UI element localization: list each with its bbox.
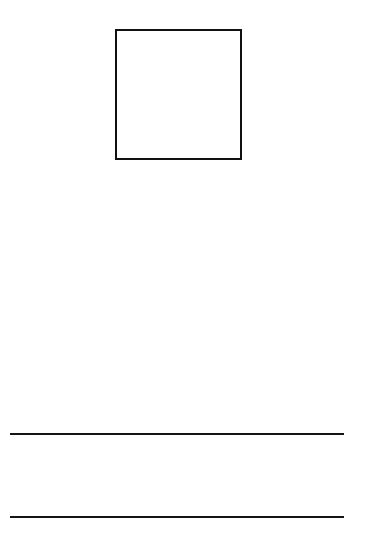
blank-line-1: [10, 433, 344, 435]
image-placeholder-box: [115, 29, 242, 160]
blank-line-2: [10, 516, 344, 518]
